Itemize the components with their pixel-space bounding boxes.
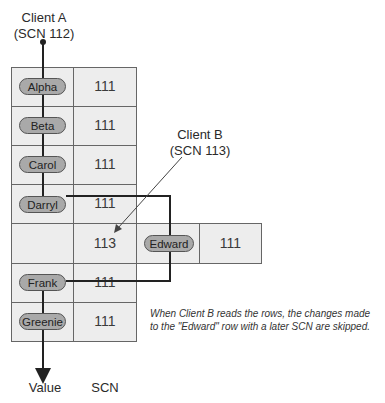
value-pill-greenie: Greenie xyxy=(19,313,66,330)
value-pill-edward: Edward xyxy=(144,235,194,252)
down-arrow-icon xyxy=(35,368,51,384)
value-pill-frank: Frank xyxy=(19,274,66,291)
value-pill-darryl: Darryl xyxy=(19,196,66,213)
value-pill-beta: Beta xyxy=(19,117,66,134)
value-pill-alpha: Alpha xyxy=(19,78,66,95)
value-pill-carol: Carol xyxy=(19,156,66,173)
